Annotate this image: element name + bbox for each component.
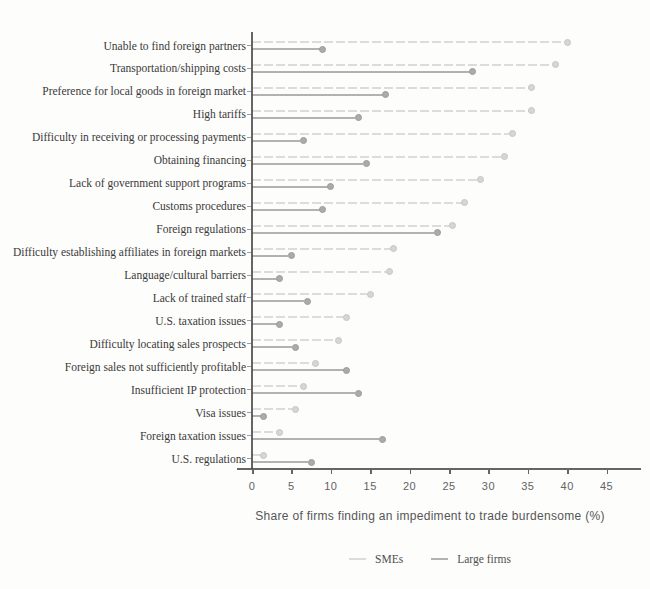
large-line [252,186,328,188]
sme-dot [461,199,468,206]
large-dot [308,459,315,466]
sme-dot [390,245,397,252]
smes-line-swatch [349,558,366,560]
scanned-chart-page: Unable to find foreign partnersTransport… [0,0,650,589]
large-dot [260,413,267,420]
sme-dot [564,39,571,46]
large-dot [288,252,295,259]
large-line [252,369,344,371]
category-label: Transportation/shipping costs [8,60,246,76]
large-line [252,438,379,440]
large-line [252,461,308,463]
category-label: Preference for local goods in foreign ma… [8,83,246,99]
category-label: Foreign sales not sufficiently profitabl… [8,359,246,375]
sme-line [252,87,529,89]
sme-dot [367,291,374,298]
category-label: Insufficient IP protection [8,382,246,398]
x-axis-tick [607,470,609,474]
category-label: Foreign taxation issues [8,428,246,444]
sme-dot [300,383,307,390]
sme-line [252,339,336,341]
large-line [252,71,470,73]
x-axis-line [237,468,641,470]
sme-line [252,179,478,181]
legend-label-large-firms: Large firms [457,553,511,565]
sme-dot [449,222,456,229]
sme-dot [292,406,299,413]
x-axis-tick [528,470,530,474]
large-dot [276,275,283,282]
sme-dot [386,268,393,275]
large-dot [304,298,311,305]
legend-label-smes: SMEs [375,553,403,565]
large-dot [319,46,326,53]
sme-dot [501,153,508,160]
x-axis-tick [370,470,372,474]
sme-dot [260,452,267,459]
sme-line [252,202,462,204]
x-axis-tick [488,470,490,474]
x-axis-tick [331,470,333,474]
large-line [252,117,355,119]
x-axis-tick-label: 35 [513,480,543,492]
category-label: Visa issues [8,405,246,421]
category-label: Customs procedures [8,198,246,214]
x-axis-tick-label: 0 [237,480,267,492]
category-label: Foreign regulations [8,221,246,237]
x-axis-tick-label: 15 [355,480,385,492]
sme-line [252,225,450,227]
x-axis-tick [449,470,451,474]
category-label: Unable to find foreign partners [8,38,246,54]
category-label: Obtaining financing [8,152,246,168]
category-label: Difficulty locating sales prospects [8,336,246,352]
large-line [252,140,300,142]
x-axis-tick-label: 45 [592,480,622,492]
x-axis-tick-label: 20 [395,480,425,492]
sme-line [252,431,277,433]
x-axis-tick-label: 25 [434,480,464,492]
large-dot [382,91,389,98]
category-label: U.S. regulations [8,451,246,467]
large-dot [363,160,370,167]
y-axis-line [251,32,253,469]
category-label: Difficulty establishing affiliates in fo… [8,244,246,260]
category-label: High tariffs [8,106,246,122]
large-dot [300,137,307,144]
sme-dot [312,360,319,367]
sme-line [252,110,529,112]
large-dot [355,114,362,121]
sme-dot [528,84,535,91]
large-dot [355,390,362,397]
sme-line [252,248,391,250]
category-label: Language/cultural barriers [8,267,246,283]
category-label: Difficulty in receiving or processing pa… [8,129,246,145]
category-label: Lack of trained staff [8,290,246,306]
large-line [252,232,434,234]
x-axis-tick [410,470,412,474]
large-dot [469,68,476,75]
sme-line [252,271,387,273]
sme-line [252,64,552,66]
large-dot [319,206,326,213]
x-axis-title: Share of firms finding an impediment to … [252,509,608,523]
lollipop-chart: Unable to find foreign partnersTransport… [0,0,650,589]
large-line [252,346,292,348]
large-line [252,163,363,165]
large-dot [434,229,441,236]
sme-dot [477,176,484,183]
large-firms-line-swatch [431,558,448,560]
large-dot [379,436,386,443]
legend-item-smes: SMEs [349,553,403,565]
large-line [252,209,320,211]
large-line [252,278,277,280]
large-line [252,392,355,394]
x-axis-tick [291,470,293,474]
large-line [252,94,383,96]
large-dot [327,183,334,190]
legend-item-large-firms: Large firms [431,553,511,565]
sme-line [252,385,300,387]
x-axis-tick-label: 40 [552,480,582,492]
sme-line [252,408,292,410]
sme-line [252,156,501,158]
category-label: Lack of government support programs [8,175,246,191]
